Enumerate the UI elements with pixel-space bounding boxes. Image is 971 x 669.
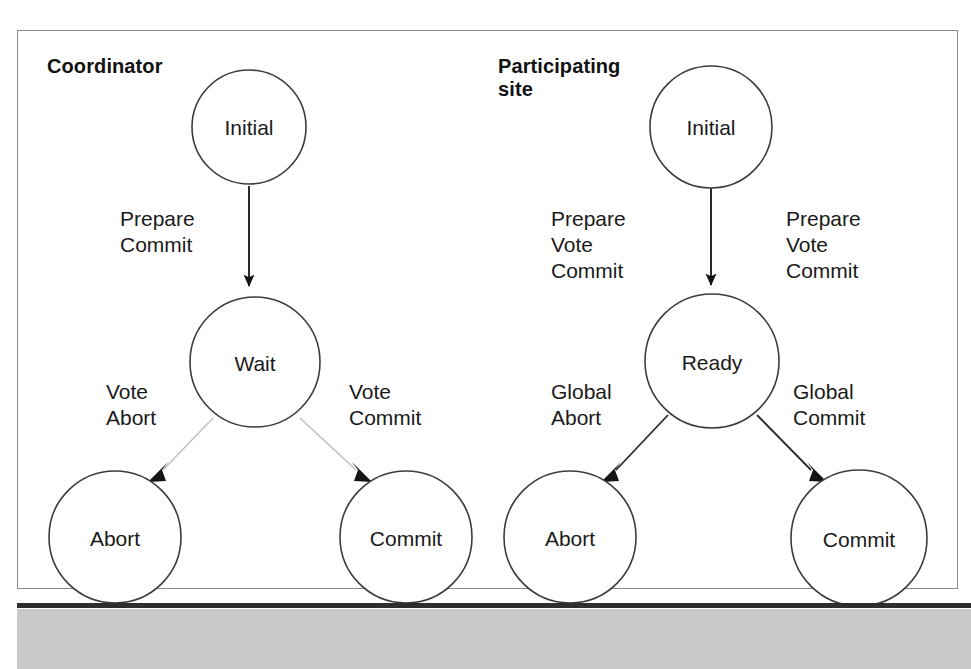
node-site-commit	[791, 470, 927, 606]
edge-label-site-prepare-vote-commit-right: Prepare Vote Commit	[786, 206, 861, 284]
edge-coord-wait-abort-head	[148, 462, 168, 482]
page-bottom-band	[17, 609, 971, 669]
edge-label-site-prepare-vote-commit-left: Prepare Vote Commit	[551, 206, 626, 284]
edge-coord-wait-abort	[163, 418, 213, 470]
edge-label-coord-vote-commit: Vote Commit	[349, 379, 421, 431]
edge-label-site-global-commit: Global Commit	[793, 379, 865, 431]
edge-label-coord-prepare-commit: Prepare Commit	[120, 206, 195, 258]
edge-label-coord-vote-abort: Vote Abort	[106, 379, 156, 431]
node-site-abort	[504, 471, 636, 603]
node-coord-commit	[340, 471, 472, 603]
node-coord-abort	[49, 471, 181, 603]
state-diagram-canvas	[0, 0, 971, 669]
page-bottom-rule	[17, 603, 971, 608]
section-title-coordinator: Coordinator	[47, 55, 163, 78]
edge-label-site-global-abort: Global Abort	[551, 379, 612, 431]
edge-site-ready-abort-head	[601, 462, 621, 482]
edge-coord-wait-commit-head	[352, 462, 372, 482]
edge-site-ready-abort	[616, 415, 668, 470]
edge-coord-wait-commit	[300, 418, 356, 470]
node-coord-wait	[190, 297, 320, 427]
section-title-participating-site: Participating site	[498, 55, 620, 101]
node-coord-initial	[192, 70, 306, 184]
node-site-initial	[650, 66, 772, 188]
figure-page: Coordinator Participating site Initial W…	[0, 0, 971, 669]
node-site-ready	[645, 294, 779, 428]
